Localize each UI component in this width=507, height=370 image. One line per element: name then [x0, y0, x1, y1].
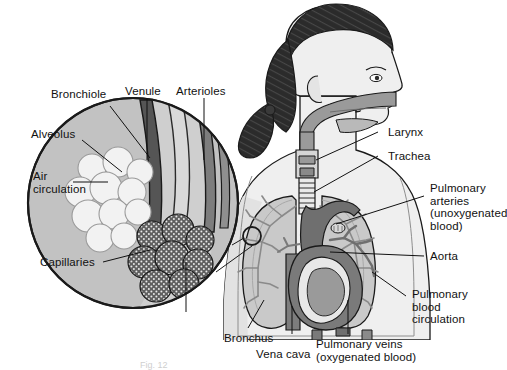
- human-figure: [224, 4, 430, 340]
- label-vena-cava: Vena cava: [256, 348, 311, 361]
- label-pulmonary-blood-circulation: Pulmonary blood circulation: [412, 288, 468, 326]
- label-arterioles: Arterioles: [176, 85, 226, 98]
- label-pulmonary-arteries: Pulmonary arteries (unoxygenated blood): [430, 182, 507, 232]
- label-aorta: Aorta: [430, 250, 458, 263]
- label-alveolus: Alveolus: [31, 128, 75, 141]
- label-venule: Venule: [125, 85, 161, 98]
- capillary-cluster: [128, 214, 214, 302]
- label-larynx: Larynx: [388, 126, 423, 139]
- figure-canvas: Bronchiole Alveolus Air circulation Capi…: [0, 0, 507, 370]
- label-capillaries: Capillaries: [40, 256, 95, 269]
- pupil: [375, 76, 379, 80]
- label-bronchiole: Bronchiole: [51, 88, 106, 101]
- label-bronchus: Bronchus: [224, 332, 273, 345]
- label-trachea: Trachea: [388, 150, 430, 163]
- figure-caption: Fig. 12: [140, 360, 168, 370]
- label-pulmonary-veins: Pulmonary veins (oxygenated blood): [316, 338, 416, 363]
- hair-tie: [265, 105, 275, 115]
- vocal-fold-area: [300, 168, 314, 176]
- larynx-inner: [299, 156, 315, 164]
- label-air-circulation: Air circulation: [33, 170, 86, 195]
- oral-cavity: [336, 119, 378, 133]
